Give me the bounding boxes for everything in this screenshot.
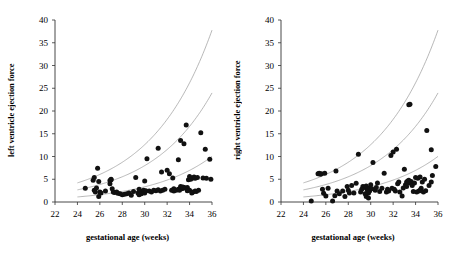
y-tick-label-right: 40 xyxy=(265,15,275,25)
x-tick-label-right: 34 xyxy=(411,209,421,219)
data-point xyxy=(428,147,433,152)
data-point xyxy=(374,180,379,185)
data-point xyxy=(394,147,399,152)
data-point xyxy=(156,146,161,151)
data-point xyxy=(198,130,203,135)
x-tick-label-left: 28 xyxy=(118,209,128,219)
data-point xyxy=(308,199,313,204)
upper-reference-curve-right xyxy=(303,30,438,183)
data-point xyxy=(95,166,100,171)
y-tick-label-left: 0 xyxy=(44,197,49,207)
data-point xyxy=(98,190,103,195)
data-point xyxy=(170,175,175,180)
data-point xyxy=(401,167,406,172)
data-point xyxy=(381,171,386,176)
data-point xyxy=(83,186,88,191)
plot-svg-right: 05101520253035402224262830323436 xyxy=(226,0,451,257)
data-point xyxy=(370,160,375,165)
y-tick-label-right: 0 xyxy=(269,197,274,207)
data-point xyxy=(373,185,378,190)
data-point xyxy=(171,186,176,191)
x-tick-label-right: 26 xyxy=(321,209,331,219)
y-tick-label-right: 25 xyxy=(265,83,275,93)
data-point xyxy=(325,186,330,191)
data-point xyxy=(322,171,327,176)
x-tick-label-right: 24 xyxy=(298,209,308,219)
data-point xyxy=(340,189,345,194)
data-point xyxy=(429,173,434,178)
x-tick-label-right: 22 xyxy=(276,209,285,219)
y-tick-label-right: 10 xyxy=(265,152,275,162)
data-point xyxy=(351,190,356,195)
x-axis-label-right: gestational age (weeks) xyxy=(266,232,441,242)
y-tick-label-right: 5 xyxy=(269,174,274,184)
x-axis-label-left: gestational age (weeks) xyxy=(40,232,215,242)
data-point xyxy=(411,180,416,185)
data-point xyxy=(196,188,201,193)
y-tick-label-left: 40 xyxy=(39,15,49,25)
data-point xyxy=(203,147,208,152)
x-tick-label-right: 28 xyxy=(343,209,353,219)
data-point xyxy=(159,169,164,174)
data-point xyxy=(379,186,384,191)
data-point xyxy=(137,187,142,192)
data-point xyxy=(391,187,396,192)
data-point xyxy=(94,185,99,190)
data-point xyxy=(365,190,370,195)
data-point xyxy=(332,193,337,198)
data-point xyxy=(181,141,186,146)
data-point xyxy=(92,175,97,180)
x-tick-label-left: 22 xyxy=(51,209,60,219)
y-tick-label-right: 30 xyxy=(265,61,275,71)
y-tick-label-left: 10 xyxy=(39,152,49,162)
data-point xyxy=(417,188,422,193)
panel-right-ventricle: right ventricle ejection force 051015202… xyxy=(226,0,451,257)
data-point xyxy=(144,156,149,161)
figure-scatter-panels: left ventricle ejection force 0510152025… xyxy=(0,0,451,257)
x-tick-label-left: 34 xyxy=(185,209,195,219)
data-point xyxy=(333,169,338,174)
data-point xyxy=(396,179,401,184)
data-point xyxy=(204,176,209,181)
panel-left-ventricle: left ventricle ejection force 0510152025… xyxy=(0,0,226,257)
data-point xyxy=(353,181,358,186)
y-tick-label-right: 35 xyxy=(265,38,275,48)
data-point xyxy=(195,175,200,180)
data-point xyxy=(180,184,185,189)
data-point xyxy=(184,123,189,128)
plot-area-left: left ventricle ejection force 0510152025… xyxy=(0,0,226,257)
data-point xyxy=(107,181,112,186)
y-tick-label-left: 25 xyxy=(39,83,49,93)
x-tick-label-left: 36 xyxy=(208,209,218,219)
data-point xyxy=(96,179,101,184)
data-point xyxy=(133,175,138,180)
x-tick-label-right: 32 xyxy=(388,209,397,219)
x-tick-label-right: 30 xyxy=(366,209,376,219)
data-point xyxy=(424,128,429,133)
data-point xyxy=(422,177,427,182)
data-point xyxy=(176,157,181,162)
x-tick-label-left: 24 xyxy=(73,209,83,219)
x-tick-label-left: 30 xyxy=(140,209,150,219)
y-tick-label-left: 5 xyxy=(44,174,49,184)
data-point xyxy=(399,194,404,199)
data-point xyxy=(407,102,412,107)
y-tick-label-right: 15 xyxy=(265,129,275,139)
data-point xyxy=(423,188,428,193)
data-point xyxy=(406,178,411,183)
data-point xyxy=(385,187,390,192)
data-point xyxy=(359,187,364,192)
x-tick-label-left: 26 xyxy=(95,209,105,219)
plot-area-right: right ventricle ejection force 051015202… xyxy=(226,0,451,257)
data-point xyxy=(355,152,360,157)
x-tick-label-right: 36 xyxy=(433,209,443,219)
data-point xyxy=(428,179,433,184)
x-tick-label-left: 32 xyxy=(163,209,172,219)
data-point xyxy=(167,171,172,176)
data-point xyxy=(103,189,108,194)
data-point xyxy=(345,188,350,193)
data-point xyxy=(131,189,136,194)
data-point xyxy=(365,195,370,200)
data-point xyxy=(323,194,328,199)
data-point xyxy=(330,199,335,204)
